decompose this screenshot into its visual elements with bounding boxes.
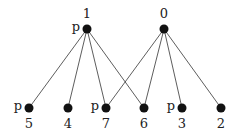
node-0: 0 <box>160 6 169 34</box>
edge-0-2 <box>164 29 221 108</box>
bipartite-graph: 01p23p45p67p <box>0 0 239 134</box>
node-dot-icon <box>178 104 187 113</box>
node-3: 3p <box>167 98 187 131</box>
node-dot-icon <box>160 25 169 34</box>
node-dot-icon <box>140 104 149 113</box>
node-mark-label: p <box>91 98 99 113</box>
edge-1-5 <box>29 29 87 108</box>
node-dot-icon <box>25 104 34 113</box>
node-label: 2 <box>217 116 225 131</box>
edges-layer <box>29 29 221 108</box>
node-label: 6 <box>140 116 148 131</box>
node-label: 4 <box>64 116 72 131</box>
node-mark-label: p <box>14 98 22 113</box>
node-label: 0 <box>160 6 168 21</box>
node-label: 5 <box>25 116 33 131</box>
node-dot-icon <box>102 104 111 113</box>
edge-0-6 <box>144 29 164 108</box>
node-6: 6 <box>140 104 149 132</box>
node-dot-icon <box>64 104 73 113</box>
node-dot-icon <box>217 104 226 113</box>
edge-1-4 <box>68 29 87 108</box>
node-label: 1 <box>83 6 91 21</box>
node-7: 7p <box>91 98 111 131</box>
node-mark-label: p <box>72 19 80 34</box>
node-label: 3 <box>178 116 186 131</box>
node-5: 5p <box>14 98 34 131</box>
nodes-layer: 01p23p45p67p <box>14 6 226 131</box>
node-mark-label: p <box>167 98 175 113</box>
node-4: 4 <box>64 104 73 132</box>
node-label: 7 <box>102 116 110 131</box>
edge-1-7 <box>87 29 106 108</box>
node-dot-icon <box>83 25 92 34</box>
node-2: 2 <box>217 104 226 132</box>
node-1: 1p <box>72 6 92 34</box>
